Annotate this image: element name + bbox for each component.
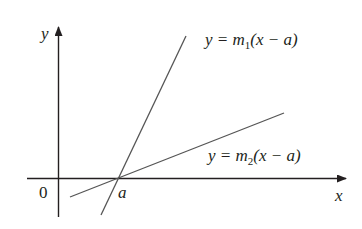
- equation-m2-label: y = m2(x − a): [208, 147, 301, 167]
- x-axis-label: x: [335, 187, 343, 204]
- origin-label: 0: [39, 184, 48, 201]
- line-m1: [101, 36, 186, 215]
- diagram-canvas: [0, 0, 362, 229]
- point-a-label: a: [118, 184, 127, 201]
- equation-m1-label: y = m1(x − a): [205, 31, 298, 51]
- y-axis-label: y: [41, 25, 49, 42]
